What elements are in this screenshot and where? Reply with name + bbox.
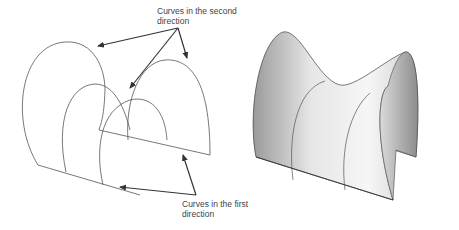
arrows-second-direction — [98, 28, 187, 88]
label-second-direction: Curves in the second direction — [157, 6, 237, 26]
shaded-surface — [253, 32, 418, 200]
label-second-line2: direction — [157, 16, 237, 26]
label-first-direction: Curves in the first direction — [182, 199, 248, 219]
label-first-line2: direction — [182, 209, 248, 219]
arrows-first-direction — [120, 155, 196, 195]
label-second-line1: Curves in the second — [157, 6, 237, 16]
diagram-canvas — [0, 0, 459, 230]
wireframe-curves — [22, 42, 210, 195]
label-first-line1: Curves in the first — [182, 199, 248, 209]
